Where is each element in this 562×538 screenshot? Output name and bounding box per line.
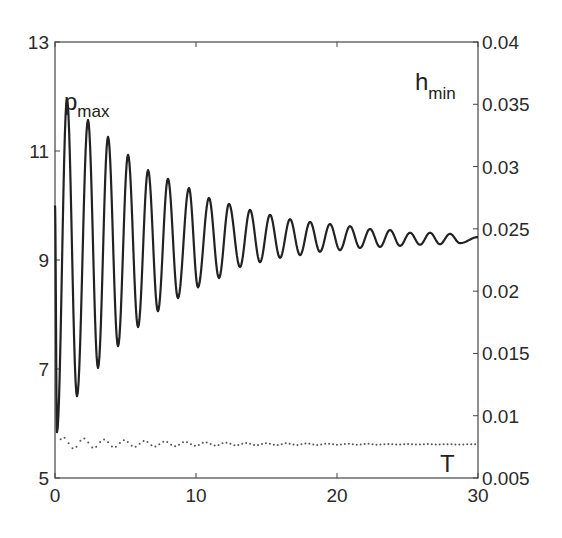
hmin-dot — [447, 443, 449, 445]
hmin-dot — [423, 443, 425, 445]
hmin-dot — [214, 445, 216, 447]
hmin-dot — [312, 443, 314, 445]
hmin-dot — [233, 444, 235, 446]
hmin-dot — [364, 443, 366, 445]
hmin-dot — [304, 443, 306, 445]
hmin-dot — [399, 444, 401, 446]
hmin-dot — [257, 444, 259, 446]
hmin-dot — [466, 443, 468, 445]
hmin-dot — [186, 441, 188, 443]
hmin-dot — [206, 441, 208, 443]
hmin-dot — [202, 442, 204, 444]
hmin-dot — [150, 444, 152, 446]
y-right-tick-label: 0.01 — [482, 406, 519, 427]
hmin-dot — [107, 441, 109, 443]
hmin-label-sub: min — [428, 84, 455, 103]
hmin-dot — [139, 443, 141, 445]
hmin-dot — [411, 443, 413, 445]
hmin-dot — [162, 441, 164, 443]
hmin-dot — [198, 444, 200, 446]
hmin-dot — [375, 444, 377, 446]
hmin-dot — [241, 443, 243, 445]
hmin-dot — [87, 442, 89, 444]
hmin-dot — [450, 443, 452, 445]
y-left-tick-label: 7 — [38, 359, 49, 380]
hmin-dot — [154, 445, 156, 447]
hmin-dot — [143, 440, 145, 442]
hmin-label-main: h — [415, 68, 428, 95]
hmin-dot — [253, 444, 255, 446]
hmin-dot — [103, 438, 105, 440]
hmin-dot — [458, 444, 460, 446]
hmin-dot — [135, 446, 137, 448]
t-label: T — [440, 450, 455, 477]
hmin-dot — [249, 443, 251, 445]
hmin-dot — [71, 447, 73, 449]
hmin-dot — [395, 444, 397, 446]
hmin-dot — [356, 444, 358, 446]
hmin-dot — [83, 438, 85, 440]
hmin-dot — [119, 442, 121, 444]
hmin-dot — [352, 443, 354, 445]
hmin-dot — [273, 444, 275, 446]
hmin-dot — [131, 445, 133, 447]
hmin-dot — [166, 441, 168, 443]
hmin-dot — [147, 441, 149, 443]
hmin-dot — [435, 443, 437, 445]
hmin-dot — [79, 440, 81, 442]
y-left-tick-label: 11 — [29, 141, 49, 162]
hmin-dot — [127, 441, 129, 443]
hmin-dot — [115, 446, 117, 448]
hmin-dot — [470, 443, 472, 445]
pmax-label-main: p — [64, 88, 77, 115]
y-right-tick-label: 0.015 — [482, 343, 530, 364]
hmin-dot — [297, 444, 299, 446]
hmin-dot — [320, 443, 322, 445]
hmin-series-dots — [60, 437, 477, 450]
hmin-dot — [391, 443, 393, 445]
hmin-dot — [427, 443, 429, 445]
hmin-dot — [403, 443, 405, 445]
hmin-dot — [454, 443, 456, 445]
y-right-tick-label: 0.04 — [482, 32, 519, 53]
hmin-dot — [99, 441, 101, 443]
hmin-dot — [348, 443, 350, 445]
hmin-dot — [261, 443, 263, 445]
plot-frame — [55, 42, 478, 478]
hmin-dot — [174, 445, 176, 447]
hmin-dot — [387, 443, 389, 445]
hmin-dot — [368, 443, 370, 445]
hmin-dot — [245, 442, 247, 444]
x-tick-label: 0 — [50, 485, 61, 506]
hmin-dot — [340, 444, 342, 446]
hmin-dot — [439, 444, 441, 446]
hmin-dot — [308, 443, 310, 445]
hmin-label: hmin — [415, 68, 456, 103]
hmin-dot — [194, 445, 196, 447]
hmin-dot — [111, 446, 113, 448]
hmin-dot — [462, 443, 464, 445]
hmin-dot — [372, 443, 374, 445]
hmin-dot — [332, 443, 334, 445]
hmin-dot — [95, 446, 97, 448]
hmin-dot — [237, 444, 239, 446]
pmax-series-line — [55, 99, 478, 432]
hmin-dot — [324, 443, 326, 445]
hmin-dot — [407, 443, 409, 445]
hmin-dot — [210, 443, 212, 445]
hmin-dot — [328, 443, 330, 445]
y-right-tick-label: 0.03 — [482, 157, 519, 178]
y-left-tick-label: 9 — [38, 250, 49, 271]
hmin-dot — [443, 443, 445, 445]
hmin-dot — [218, 444, 220, 446]
hmin-dot — [190, 443, 192, 445]
hmin-dot — [123, 439, 125, 441]
hmin-dot — [293, 444, 295, 446]
hmin-dot — [419, 444, 421, 446]
hmin-dot — [316, 444, 318, 446]
hmin-dot — [182, 441, 184, 443]
y-left-tick-label: 5 — [38, 468, 49, 489]
y-right-tick-label: 0.02 — [482, 281, 519, 302]
y-right-tick-label: 0.025 — [482, 219, 530, 240]
y-left-tick-label: 13 — [28, 32, 49, 53]
